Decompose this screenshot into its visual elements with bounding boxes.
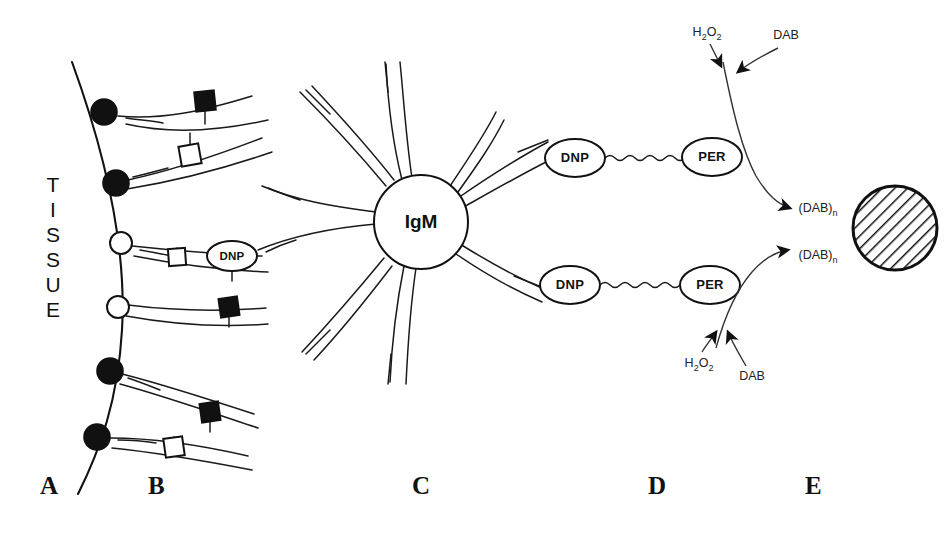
igm-arm: [312, 86, 394, 180]
figure-canvas: T I S S U E: [0, 0, 949, 538]
igm-arm: [258, 224, 376, 250]
igm-arm: [390, 266, 404, 382]
igm-arm: [450, 112, 496, 186]
hapten-filled-square: [199, 401, 220, 422]
h2o2-label-bottom: H2O2: [685, 356, 714, 373]
antibody-arm: [120, 384, 258, 428]
igm-arm: [456, 254, 542, 302]
igm-arm: [406, 268, 416, 384]
hapten-open-square: [168, 248, 186, 266]
antigen-open-circle: [107, 296, 129, 318]
antibody-arm: [126, 316, 268, 326]
hapten-open-square: [178, 143, 201, 166]
panel-label-b: B: [148, 472, 165, 500]
antigen-filled-circle: [84, 424, 110, 450]
antibody-arm-tip: [133, 168, 168, 177]
dab-product-label-top: (DAB)n: [798, 201, 837, 218]
antigen-filled-circle: [91, 99, 117, 125]
per-oval-lower-label: PER: [696, 277, 724, 292]
antibody-arm: [128, 305, 266, 310]
panel-label-c: C: [412, 472, 430, 500]
h2o2-arrow-top[interactable]: [710, 44, 721, 66]
igm-arm: [400, 62, 412, 178]
antibody-arm: [126, 120, 268, 130]
igm-arm: [302, 258, 384, 352]
diagram-svg: DNP IgM: [0, 0, 949, 538]
hapten-filled-square: [218, 296, 239, 317]
igm-arm: [386, 64, 402, 180]
igm-label: IgM: [405, 211, 438, 232]
conjugate-linker: [600, 283, 687, 288]
dnp-oval-lower-label: DNP: [556, 277, 584, 292]
dab-arrow-bottom[interactable]: [728, 332, 746, 366]
h2o2-arrow-bottom[interactable]: [702, 332, 716, 352]
dab-arrow-top[interactable]: [738, 48, 778, 72]
per-oval-upper-label: PER: [698, 149, 726, 164]
dab-deposit-circle: [853, 186, 937, 270]
dab-product-label-bottom: (DAB)n: [798, 248, 837, 265]
igm-arm-tip: [268, 188, 300, 200]
dnp-oval-b-label: DNP: [219, 250, 244, 262]
antigen-filled-circle: [97, 358, 123, 384]
antibody-arm: [122, 374, 254, 414]
igm-arm: [300, 92, 386, 186]
hapten-open-square: [163, 436, 184, 457]
antigen-filled-circle: [103, 170, 129, 196]
antigen-open-circle: [110, 232, 132, 254]
dnp-oval-upper-label: DNP: [561, 150, 589, 165]
igm-arm: [262, 186, 376, 212]
reaction-curve-top[interactable]: [723, 62, 790, 208]
h2o2-label-top: H2O2: [693, 25, 722, 42]
dab-label-bottom: DAB: [739, 369, 765, 383]
conjugate-linker: [605, 156, 692, 161]
igm-arm: [314, 266, 392, 360]
igm-arm: [458, 142, 548, 198]
antibody-arm-tip: [126, 118, 163, 123]
hapten-filled-square: [194, 90, 216, 112]
panel-label-e: E: [805, 472, 822, 500]
antibody-arm: [118, 96, 252, 117]
igm-arm: [458, 120, 504, 192]
dab-label-top: DAB: [773, 28, 799, 42]
panel-label-d: D: [648, 472, 666, 500]
panel-label-a: A: [40, 472, 58, 500]
